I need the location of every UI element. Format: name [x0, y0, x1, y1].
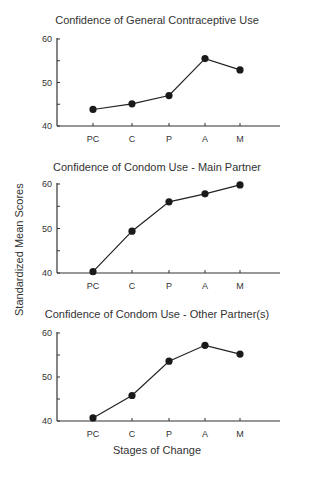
data-point	[128, 228, 135, 235]
x-tick-label: PC	[87, 134, 100, 144]
x-tick-label: M	[236, 281, 244, 291]
x-tick-label: A	[202, 429, 208, 439]
data-point	[165, 198, 172, 205]
data-point	[201, 342, 208, 349]
x-tick-label: A	[202, 281, 208, 291]
data-point	[165, 92, 172, 99]
data-line	[93, 345, 240, 418]
data-point	[201, 55, 208, 62]
x-tick-label: M	[236, 134, 244, 144]
x-tick-label: PC	[87, 281, 100, 291]
data-point	[89, 414, 96, 421]
x-tick-label: C	[129, 429, 136, 439]
y-tick-label: 50	[42, 78, 52, 88]
x-tick-label: P	[166, 281, 172, 291]
data-line	[93, 185, 240, 272]
x-tick-label: P	[166, 429, 172, 439]
y-tick-label: 40	[42, 121, 52, 131]
data-point	[236, 351, 243, 358]
data-point	[236, 181, 243, 188]
data-point	[128, 392, 135, 399]
y-tick-label: 50	[42, 372, 52, 382]
y-tick-label: 60	[42, 328, 52, 338]
x-tick-label: M	[236, 429, 244, 439]
x-tick-label: C	[129, 281, 136, 291]
y-tick-label: 50	[42, 224, 52, 234]
data-point	[165, 358, 172, 365]
data-line	[93, 59, 240, 110]
data-point	[236, 66, 243, 73]
chart-panels: 405060PCCPAM405060PCCPAM405060PCCPAM	[0, 0, 314, 477]
data-point	[89, 268, 96, 275]
y-tick-label: 60	[42, 34, 52, 44]
y-tick-label: 40	[42, 416, 52, 426]
data-point	[89, 106, 96, 113]
data-point	[201, 190, 208, 197]
x-tick-label: PC	[87, 429, 100, 439]
y-tick-label: 40	[42, 268, 52, 278]
data-point	[128, 100, 135, 107]
y-tick-label: 60	[42, 179, 52, 189]
x-tick-label: A	[202, 134, 208, 144]
x-tick-label: C	[129, 134, 136, 144]
x-tick-label: P	[166, 134, 172, 144]
